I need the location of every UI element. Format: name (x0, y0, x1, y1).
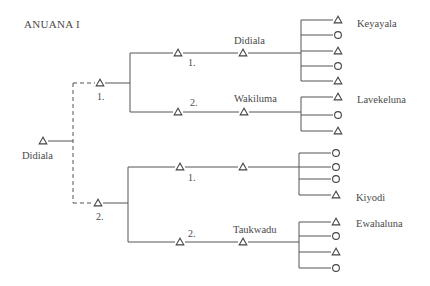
male-triangle-icon (240, 108, 248, 115)
person-name-label: Wakiluma (234, 93, 277, 104)
female-circle-icon (333, 176, 340, 183)
female-circle-icon (333, 164, 340, 171)
person-name-label: Didiala (234, 35, 265, 46)
birth-order-label: 1. (188, 172, 196, 183)
birth-order-label: 2. (190, 97, 198, 108)
kin-labels: Didiala1.1.DidialaKeyayala2.WakilumaLave… (22, 18, 406, 239)
male-triangle-icon (332, 248, 340, 255)
female-circle-icon (333, 233, 340, 240)
male-triangle-icon (39, 137, 47, 144)
lineage-group-label: Kiyodi (356, 192, 385, 203)
male-triangle-icon (174, 49, 182, 56)
person-name-label: Taukwadu (233, 224, 277, 235)
birth-order-label: 1. (188, 57, 196, 68)
male-triangle-icon (334, 93, 342, 100)
lineage-group-label: Lavekeluna (357, 94, 406, 105)
birth-order-label: 1. (97, 91, 105, 102)
female-circle-icon (335, 32, 342, 39)
male-triangle-icon (334, 127, 342, 134)
male-triangle-icon (176, 238, 184, 245)
root-name-label: Didiala (22, 150, 53, 161)
male-triangle-icon (239, 163, 247, 170)
diagram-title: ANUANA I (24, 18, 80, 30)
male-triangle-icon (94, 199, 102, 206)
male-triangle-icon (334, 47, 342, 54)
male-triangle-icon (332, 191, 340, 198)
male-triangle-icon (96, 79, 104, 86)
male-triangle-icon (176, 163, 184, 170)
kinship-diagram: ANUANA I Didiala1.1.DidialaKeyayala2.Wak… (0, 0, 430, 286)
female-circle-icon (333, 150, 340, 157)
male-triangle-icon (239, 238, 247, 245)
male-triangle-icon (334, 77, 342, 84)
male-triangle-icon (332, 218, 340, 225)
male-triangle-icon (174, 108, 182, 115)
genealogy-canvas: ANUANA I Didiala1.1.DidialaKeyayala2.Wak… (0, 0, 430, 286)
lineage-group-label: Ewahaluna (356, 218, 403, 229)
birth-order-label: 2. (188, 228, 196, 239)
female-circle-icon (333, 265, 340, 272)
lineage-group-label: Keyayala (357, 18, 397, 29)
female-circle-icon (335, 112, 342, 119)
birth-order-label: 2. (96, 211, 104, 222)
male-triangle-icon (239, 49, 247, 56)
male-triangle-icon (334, 16, 342, 23)
female-circle-icon (335, 63, 342, 70)
